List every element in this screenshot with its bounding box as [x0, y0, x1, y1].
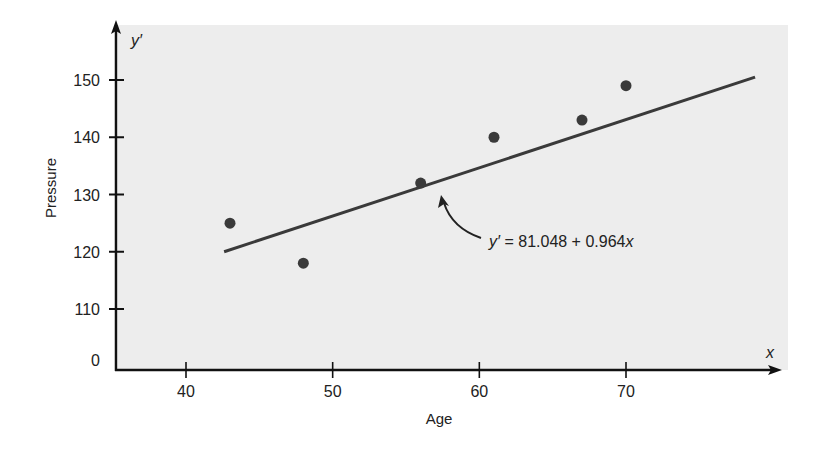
y-tick-label: 140: [73, 129, 100, 146]
x-tick-label: 60: [470, 383, 488, 400]
y-tick-label: 130: [73, 187, 100, 204]
scatter-plot-chart: 0110120130140150 40506070 y′ x Pressure …: [0, 0, 821, 457]
x-tick-label: 40: [177, 383, 195, 400]
equation-x-symbol: x: [624, 233, 634, 250]
y-tick-label: 150: [73, 72, 100, 89]
equation-body: = 81.048 + 0.964: [500, 233, 626, 250]
x-axis-variable-label: x: [765, 344, 775, 361]
data-point: [298, 258, 309, 269]
chart-canvas: 0110120130140150 40506070 y′ x Pressure …: [0, 0, 821, 457]
y-tick-label: 0: [91, 352, 100, 369]
data-point: [489, 132, 500, 143]
data-point: [577, 115, 588, 126]
y-tick-label: 110: [74, 301, 100, 318]
data-point: [225, 218, 236, 229]
x-tick-label: 50: [324, 383, 342, 400]
y-axis-title: Pressure: [42, 158, 59, 218]
x-axis-title: Age: [426, 410, 453, 427]
plot-area-background: [118, 25, 788, 370]
y-tick-label: 120: [73, 244, 100, 261]
data-point: [621, 80, 632, 91]
data-point: [415, 178, 426, 189]
regression-equation: y′ = 81.048 + 0.964x: [488, 233, 634, 250]
x-tick-label: 70: [617, 383, 635, 400]
y-axis-variable-label: y′: [130, 32, 143, 49]
